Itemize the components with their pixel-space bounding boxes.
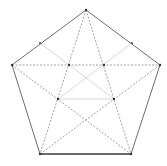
- edge-midpoint-upper-left: [39, 42, 41, 44]
- edge-bottom-left: [12, 65, 40, 154]
- faint-lines: [40, 43, 132, 99]
- dashed-top-to-bottom-left: [40, 10, 86, 154]
- edge-top-right: [86, 10, 160, 65]
- inner-point-lower-right: [113, 98, 115, 100]
- inner-point-upper-right: [103, 64, 105, 66]
- edge-left-top: [12, 10, 86, 65]
- vertex-left: [11, 64, 13, 66]
- dashed-right-to-bottom-left: [40, 65, 160, 154]
- dashed-top-to-bottom-right: [86, 10, 131, 154]
- faint-line-right-mid-to-lower-left: [58, 43, 132, 99]
- pentagon-outline: [12, 10, 160, 154]
- vertex-bottom-right: [130, 153, 132, 155]
- dashed-left-to-bottom-right: [12, 65, 131, 154]
- edge-right-bottom: [131, 65, 160, 154]
- inner-point-upper-left: [68, 64, 70, 66]
- vertex-right: [159, 64, 161, 66]
- pentagon-diagram: [0, 0, 167, 166]
- inner-point-lower-left: [57, 98, 59, 100]
- faint-line-left-mid-to-lower-right: [40, 43, 114, 99]
- vertex-bottom-left: [39, 153, 41, 155]
- edge-midpoint-upper-right: [131, 42, 133, 44]
- diagram-canvas: [0, 0, 167, 166]
- vertex-top: [85, 9, 87, 11]
